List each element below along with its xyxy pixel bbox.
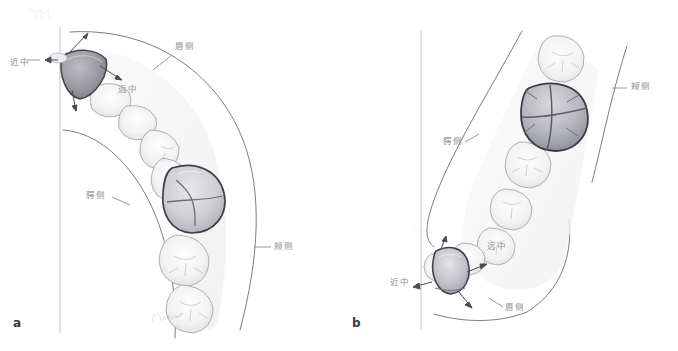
leader-palatal-a bbox=[112, 197, 130, 205]
label-buccal-a: 颊侧 bbox=[274, 239, 294, 251]
panel-a: 近中 远中 唇侧 腭侧 颊侧 a bbox=[0, 0, 339, 351]
highlighted-molar-a bbox=[163, 165, 225, 233]
label-distal-b: 远中 bbox=[487, 239, 507, 251]
panel-letter-a: a bbox=[13, 316, 21, 330]
leader-palatal-b bbox=[465, 134, 479, 142]
panel-letter-b: b bbox=[352, 316, 361, 330]
tooth-b-1 bbox=[538, 36, 584, 82]
panel-b-artwork bbox=[339, 0, 678, 351]
label-mesial-a: 近中 bbox=[10, 55, 30, 67]
panel-b: 颊侧 腭侧 远中 近中 唇侧 b bbox=[339, 0, 678, 351]
highlighted-incisor-b bbox=[433, 248, 469, 294]
outer-arch-arc-b bbox=[592, 46, 627, 182]
highlighted-molar-b bbox=[521, 84, 588, 151]
label-mesial-b: 近中 bbox=[390, 275, 410, 287]
panel-a-artwork bbox=[0, 0, 339, 351]
arrow-mesial-b bbox=[413, 282, 432, 289]
leader-labial-a bbox=[153, 55, 172, 70]
leader-labial-b bbox=[489, 298, 503, 307]
label-palatal-b: 腭侧 bbox=[443, 134, 463, 146]
figure-root: 近中 远中 唇侧 腭侧 颊侧 a bbox=[0, 0, 678, 351]
label-labial-a: 唇侧 bbox=[175, 39, 195, 51]
label-buccal-b: 颊侧 bbox=[631, 79, 651, 91]
label-distal-a: 远中 bbox=[118, 82, 138, 94]
label-palatal-a: 腭侧 bbox=[86, 188, 106, 200]
paper-smudge-a bbox=[30, 9, 50, 20]
arrow-down-b bbox=[459, 292, 472, 308]
label-labial-b: 唇侧 bbox=[505, 300, 525, 312]
